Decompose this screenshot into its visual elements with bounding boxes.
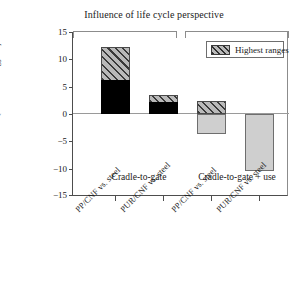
- bar-2-base-segment: [149, 102, 178, 114]
- bar-3[interactable]: [197, 101, 226, 134]
- y-tick-label-minus15: −15: [53, 190, 67, 200]
- bar-3-highest-range-segment: [197, 101, 226, 114]
- chart-title: Influence of life cycle perspective: [0, 9, 308, 20]
- bar-2[interactable]: [149, 95, 178, 114]
- legend-label-highest-ranges: Highest ranges: [235, 45, 289, 55]
- x-tick-4: [259, 196, 260, 201]
- y-tick-label-10: 10: [58, 54, 67, 64]
- x-tick-3: [211, 196, 212, 201]
- y-tick-label-5: 5: [63, 82, 68, 92]
- y-axis-title: (Ratio of energy requirements compared t…: [0, 0, 2, 118]
- y-tick-label-minus10: −10: [53, 164, 67, 174]
- chart-figure: Influence of life cycle perspective (Rat…: [0, 0, 308, 287]
- x-tick-2: [163, 196, 164, 201]
- legend: Highest ranges: [206, 41, 284, 58]
- bar-1-highest-range-segment: [101, 47, 130, 81]
- y-tick-label-15: 15: [58, 27, 67, 37]
- legend-swatch-hatched-icon: [211, 45, 230, 55]
- bar-1[interactable]: [101, 47, 130, 114]
- bar-3-base-segment: [197, 114, 226, 134]
- y-tick-label-minus5: −5: [57, 136, 67, 146]
- y-tick-label-0: 0: [63, 109, 68, 119]
- bar-1-base-segment: [101, 80, 130, 114]
- x-tick-1: [115, 196, 116, 201]
